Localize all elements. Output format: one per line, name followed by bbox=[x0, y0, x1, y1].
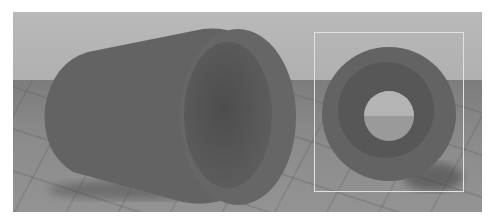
front-view-frame bbox=[314, 32, 464, 192]
render-scene bbox=[13, 12, 482, 212]
tube-bore bbox=[184, 42, 272, 188]
